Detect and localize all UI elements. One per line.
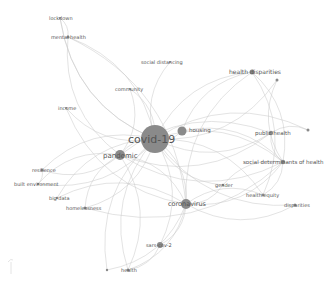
label-big-data: big data (49, 195, 70, 202)
label-gender: gender (215, 182, 234, 189)
label-housing: housing (189, 127, 211, 134)
label-health-equity: health equity (246, 192, 279, 199)
edge-public-health-social-determinants-of-health (271, 133, 283, 162)
node-unlabeled-3[interactable] (106, 269, 108, 271)
label-covid-19: covid-19 (128, 133, 175, 146)
edge-coronavirus-big-data (57, 183, 186, 204)
edge-covid-19-sars-cov-2 (155, 139, 172, 245)
label-sars-cov-2: sars-cov-2 (146, 242, 172, 248)
label-community: community (115, 86, 143, 93)
label-homelessness: homelessness (66, 205, 102, 211)
node-unlabeled-1[interactable] (276, 79, 279, 82)
label-resilience: resilience (32, 167, 56, 173)
label-disparities: disparities (284, 202, 310, 209)
label-built-environment: built environment (14, 181, 59, 187)
label-health-disparities: health disparities (229, 68, 281, 76)
keyword-network-graph: covid-19pandemiccoronavirushousinghealth… (0, 0, 332, 285)
edge-health-disparities-housing (182, 72, 252, 131)
label-social-distancing: social distancing (141, 59, 183, 66)
label-health: health (121, 267, 137, 273)
edge-unlabeled-3-coronavirus (107, 204, 186, 270)
label-lockdown: lockdown (49, 15, 73, 21)
label-mental-health: mental health (51, 34, 86, 40)
edge-covid-19-health-equity (155, 139, 263, 195)
edge-social-determinants-of-health-unlabeled-1 (268, 80, 283, 162)
node-housing[interactable] (178, 127, 187, 136)
edge-coronavirus-sars-cov-2 (160, 204, 186, 245)
edge-pandemic-homelessness (85, 155, 120, 208)
label-public-health: public health (255, 130, 291, 137)
decorative-stroke-icon (8, 259, 13, 274)
edge-covid-19-homelessness (85, 139, 155, 208)
label-pandemic: pandemic (103, 152, 138, 160)
label-income: income (58, 105, 76, 111)
edge-pandemic-health (120, 155, 140, 270)
label-coronavirus: coronavirus (168, 200, 207, 208)
label-social-determinants-of-health: social determinants of health (243, 159, 324, 165)
node-unlabeled-2[interactable] (307, 129, 310, 132)
